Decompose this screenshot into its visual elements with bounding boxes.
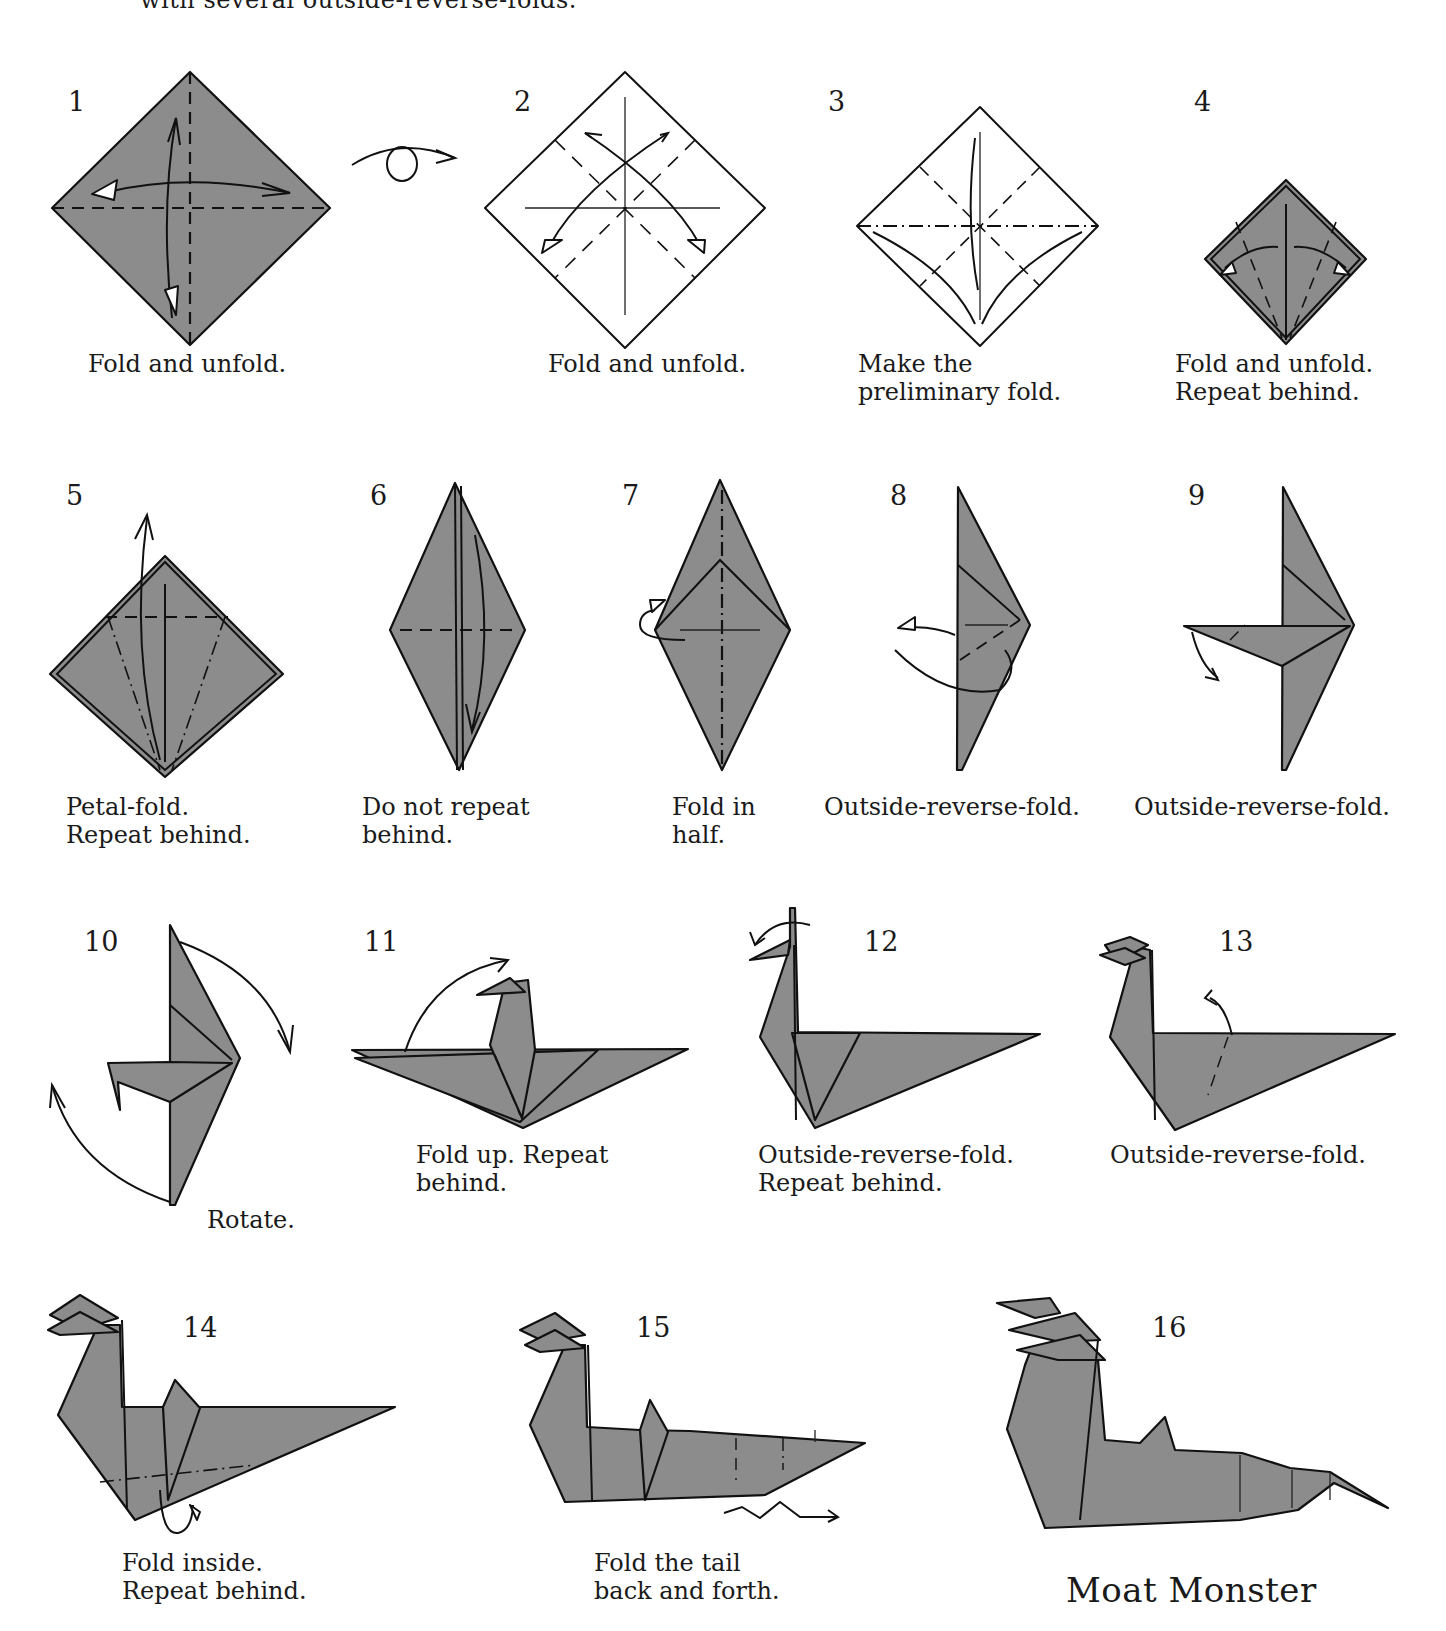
step-caption: Do not repeat behind.: [362, 793, 530, 849]
step-number: 1: [68, 86, 85, 117]
step-number: 6: [370, 480, 387, 511]
step-caption: Petal-fold. Repeat behind.: [66, 793, 251, 849]
step-caption: Fold up. Repeat behind.: [416, 1141, 608, 1197]
step-number: 14: [183, 1312, 217, 1343]
model-title: Moat Monster: [1066, 1570, 1317, 1610]
step-14-diagram: [48, 1295, 395, 1533]
step-caption: Fold and unfold. Repeat behind.: [1175, 350, 1373, 406]
step-number: 10: [84, 926, 118, 957]
step-caption: Outside-reverse-fold.: [1110, 1141, 1366, 1169]
step-caption: Rotate.: [207, 1206, 295, 1234]
step-caption: Outside-reverse-fold.: [824, 793, 1080, 821]
step-number: 2: [514, 86, 531, 117]
step-15-diagram: [520, 1313, 865, 1522]
step-number: 15: [636, 1312, 670, 1343]
step-7-diagram: [640, 480, 790, 770]
turn-over-icon: [352, 147, 455, 181]
step-number: 11: [364, 926, 398, 957]
step-number: 5: [66, 480, 83, 511]
step-number: 13: [1219, 926, 1253, 957]
step-caption: Outside-reverse-fold. Repeat behind.: [758, 1141, 1014, 1197]
step-caption: Make the preliminary fold.: [858, 350, 1061, 406]
step-caption: Outside-reverse-fold.: [1134, 793, 1390, 821]
step-16-diagram: [997, 1298, 1388, 1528]
step-number: 8: [890, 480, 907, 511]
step-number: 12: [864, 926, 898, 957]
step-caption: Fold and unfold.: [548, 350, 746, 378]
step-number: 4: [1194, 86, 1211, 117]
step-caption: Fold in half.: [672, 793, 756, 849]
step-8-diagram: [895, 487, 1030, 770]
step-3-diagram: [857, 107, 1098, 346]
step-number: 16: [1152, 1312, 1186, 1343]
step-caption: Fold the tail back and forth.: [594, 1549, 780, 1605]
step-1-diagram: [52, 72, 330, 345]
step-caption: Fold and unfold.: [88, 350, 286, 378]
step-10-diagram: [50, 925, 293, 1205]
step-number: 7: [622, 480, 639, 511]
step-number: 9: [1188, 480, 1205, 511]
step-5-diagram: [50, 515, 283, 777]
step-13-diagram: [1100, 937, 1395, 1130]
step-caption: Fold inside. Repeat behind.: [122, 1549, 307, 1605]
step-4-diagram: [1205, 180, 1366, 344]
step-number: 3: [828, 86, 845, 117]
step-6-diagram: [390, 483, 525, 770]
step-11-diagram: [352, 958, 688, 1128]
step-9-diagram: [1184, 487, 1354, 770]
